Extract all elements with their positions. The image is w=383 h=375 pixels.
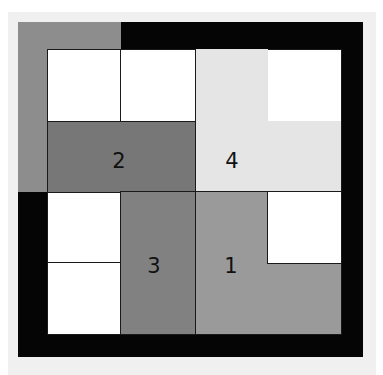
empty-cell [47, 49, 122, 122]
piece-1-label: 1 [224, 254, 237, 278]
empty-cell [47, 262, 122, 335]
corner-piece-side [18, 22, 48, 192]
empty-cell [47, 191, 122, 264]
piece-2-label: 2 [112, 149, 125, 173]
piece-4-arm[interactable] [196, 121, 342, 192]
piece-3-label: 3 [147, 254, 160, 278]
piece-4-label: 4 [225, 149, 238, 173]
empty-cell [267, 49, 342, 122]
piece-1-arm[interactable] [267, 263, 342, 335]
empty-cell [267, 191, 342, 264]
empty-cell [120, 49, 196, 122]
